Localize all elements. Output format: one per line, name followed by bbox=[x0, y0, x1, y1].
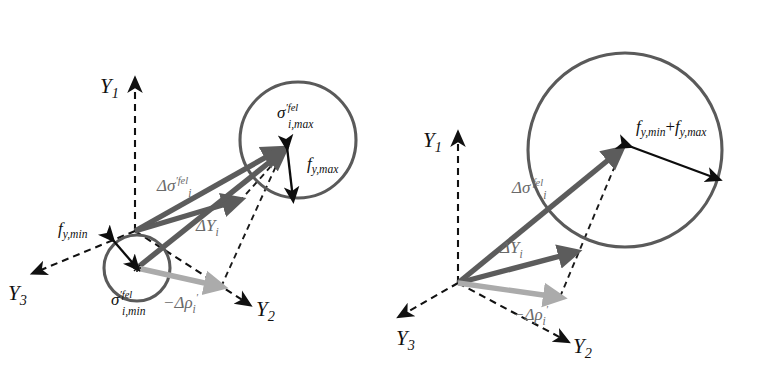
label-minus-delta-rho-left: −Δρi′ bbox=[163, 292, 199, 316]
axis-label-y3-right: Y3 bbox=[396, 326, 415, 353]
axis-label-y1-right: Y1 bbox=[423, 128, 442, 155]
axis-y3-right bbox=[402, 283, 458, 315]
label-sigma-min-left: σ′feli,min bbox=[111, 289, 146, 318]
label-delta-sigma-left: Δσ′feli bbox=[156, 175, 191, 200]
label-fy-min-left: fy,min bbox=[58, 219, 88, 241]
axis-label-y2-right: Y2 bbox=[573, 334, 592, 361]
axis-label-y2-left: Y2 bbox=[256, 297, 275, 324]
label-delta-y-right: ΔYi bbox=[499, 238, 523, 261]
vector-sigma-min-to-max-left bbox=[137, 153, 281, 268]
label-fy-sum-right: fy,min+fy,max bbox=[636, 117, 707, 139]
label-fy-max-left: fy,max bbox=[307, 154, 339, 176]
combined-yield-circle bbox=[528, 53, 722, 247]
label-delta-y-left: ΔYi bbox=[195, 216, 219, 239]
axis-label-y3-left: Y3 bbox=[8, 281, 27, 308]
center-marker-min-left bbox=[133, 264, 141, 272]
right-panel: Y1 Y2 Y3 Δσ′feli ΔYi −Δρi′ fy,min+fy,max bbox=[396, 53, 722, 361]
max-yield-circle bbox=[240, 82, 356, 198]
left-panel: Y1 Y2 Y3 σ′feli,max σ′feli,min Δσ′feli Δ… bbox=[8, 74, 356, 324]
diagram-figure: Y1 Y2 Y3 σ′feli,max σ′feli,min Δσ′feli Δ… bbox=[0, 0, 776, 370]
diagram-canvas: Y1 Y2 Y3 σ′feli,max σ′feli,min Δσ′feli Δ… bbox=[0, 0, 776, 370]
axis-label-y1-left: Y1 bbox=[100, 74, 119, 101]
arrow-fy-sum-right bbox=[629, 146, 718, 179]
label-minus-delta-rho-right: −Δρi′ bbox=[513, 304, 549, 328]
arrow-fy-max-left bbox=[287, 147, 293, 199]
label-sigma-max-left: σ′feli,max bbox=[277, 102, 314, 131]
arrow-fy-min-left bbox=[112, 239, 137, 268]
